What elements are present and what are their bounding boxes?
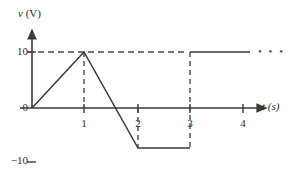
plot-canvas [0, 0, 292, 179]
x-axis-title-unit: (s) [268, 100, 280, 112]
y-axis-title: v (V) [18, 8, 41, 19]
x-tick-label-3: 3 [180, 118, 200, 129]
y-tick-label-10: 10 [0, 46, 28, 57]
waveform-figure: • • • 10 0 −10 1 2 3 4 v (V) t (s) [0, 0, 292, 179]
x-tick-label-2: 2 [128, 118, 148, 129]
y-tick-label-neg10: −10 [0, 155, 28, 166]
x-axis-title: t (s) [262, 101, 279, 112]
y-tick-label-0: 0 [0, 102, 28, 113]
continuation-dots: • • • [258, 46, 285, 57]
y-axis-title-unit: (V) [26, 7, 41, 19]
x-tick-label-4: 4 [233, 118, 253, 129]
x-tick-label-1: 1 [74, 118, 94, 129]
waveform-trace [32, 52, 190, 148]
